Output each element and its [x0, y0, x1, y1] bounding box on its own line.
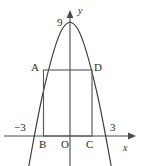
point-label-a: A: [31, 62, 39, 73]
y-axis-arrow-icon: [67, 10, 74, 18]
rectangle-abcd: [44, 70, 93, 136]
figure-canvas: [0, 0, 141, 166]
point-label-c: C: [86, 139, 93, 150]
point-label-b: B: [39, 139, 46, 150]
x-axis-label: x: [123, 143, 127, 153]
vertex-value-label: 9: [57, 17, 63, 28]
origin-label: O: [61, 139, 69, 150]
y-axis-label: y: [78, 6, 82, 16]
x-intercept-label-positive-three: 3: [110, 122, 116, 133]
x-intercept-label-negative-three: −3: [14, 122, 26, 133]
point-label-d: D: [94, 62, 102, 73]
x-axis-arrow-icon: [128, 133, 136, 140]
parabola-rectangle-figure: 9 y x A D B O C −3 3: [0, 0, 141, 166]
